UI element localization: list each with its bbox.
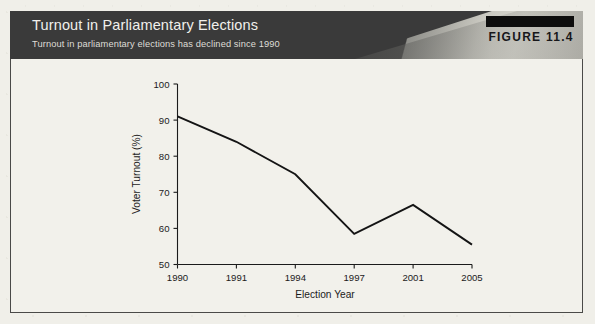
figure-page: FIGURE 11.4 Turnout in Parliamentary Ele… [0,0,595,324]
y-axis-tick-labels: 5060708090100 [153,79,169,271]
x-tick-label: 1991 [226,272,247,283]
x-tick-label: 1997 [344,272,365,283]
y-tick-label: 60 [159,223,170,234]
figure-subtitle: Turnout in parliamentary elections has d… [32,39,280,49]
x-axis: 199019911994199720012005 [167,265,483,283]
y-axis-ticks [174,84,178,265]
y-tick-label: 90 [159,115,170,126]
x-axis-title: Election Year [295,289,355,300]
y-tick-label: 100 [153,79,169,90]
figure-tag-label: FIGURE 11.4 [489,29,574,44]
y-tick-label: 50 [159,259,170,270]
x-tick-label: 1994 [285,272,307,283]
figure-header-band: FIGURE 11.4 Turnout in Parliamentary Ele… [10,11,583,59]
turnout-series-line [178,116,473,244]
line-chart: 5060708090100 199019911994199720012005 V… [10,59,583,313]
x-axis-ticks [178,265,473,269]
figure-title: Turnout in Parliamentary Elections [32,17,258,33]
y-axis: 5060708090100 [153,79,177,271]
y-axis-title: Voter Turnout (%) [131,134,142,214]
x-axis-tick-labels: 199019911994199720012005 [167,272,483,283]
chart-plot-area: 5060708090100 199019911994199720012005 V… [10,59,583,313]
figure-tag-bar [486,16,574,27]
x-tick-label: 1990 [167,272,188,283]
x-tick-label: 2001 [402,272,423,283]
y-tick-label: 80 [159,151,170,162]
x-tick-label: 2005 [461,272,482,283]
y-tick-label: 70 [159,187,170,198]
